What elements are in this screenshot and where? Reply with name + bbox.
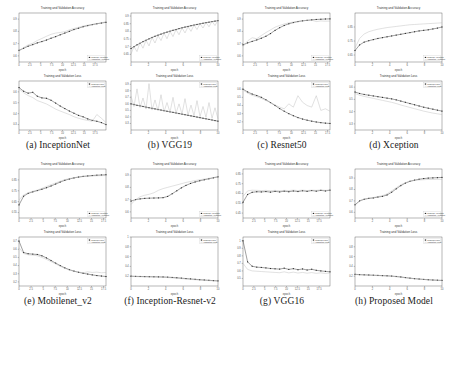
svg-text:0.5: 0.5 — [125, 108, 129, 112]
svg-text:Validation Accuracy: Validation Accuracy — [91, 58, 110, 60]
svg-text:0.6: 0.6 — [349, 255, 353, 259]
svg-text:1: 1 — [127, 235, 129, 239]
svg-text:0.8: 0.8 — [125, 245, 129, 249]
plot-legend: Training AccuracyValidation Accuracy — [200, 212, 222, 217]
series-line — [243, 90, 330, 111]
panel-b: Training and Validation Accuracy02468100… — [114, 4, 226, 140]
series-line — [355, 92, 442, 111]
svg-text:5: 5 — [266, 131, 268, 135]
svg-text:0: 0 — [242, 287, 244, 291]
svg-text:0.5: 0.5 — [237, 276, 241, 280]
svg-text:0.7: 0.7 — [13, 239, 17, 243]
svg-text:0.6: 0.6 — [13, 247, 17, 251]
svg-text:2: 2 — [148, 287, 150, 291]
plot-title: Training and Validation Accuracy — [377, 6, 421, 10]
svg-text:0.85: 0.85 — [124, 22, 130, 26]
svg-text:0.6: 0.6 — [349, 85, 353, 89]
svg-text:17.5: 17.5 — [317, 287, 323, 291]
svg-text:0.3: 0.3 — [349, 122, 353, 126]
svg-text:10: 10 — [61, 131, 64, 135]
svg-text:12.5: 12.5 — [77, 219, 83, 223]
panel-f-plots: Training and Validation Accuracy02468100… — [114, 160, 226, 296]
svg-text:6: 6 — [406, 63, 408, 67]
plot-accuracy: Training and Validation Accuracy02468100… — [118, 160, 222, 228]
svg-text:7.5: 7.5 — [53, 219, 57, 223]
svg-text:15: 15 — [307, 287, 310, 291]
plot-loss: Training and Validation Loss02468100.30.… — [342, 72, 446, 140]
svg-text:0.7: 0.7 — [125, 198, 129, 202]
plot-loss: Training and Validation Loss02468100.30.… — [118, 72, 222, 140]
svg-text:0.5: 0.5 — [237, 95, 241, 99]
svg-text:15: 15 — [90, 219, 93, 223]
plot-legend: Training LossValidation Loss — [424, 238, 441, 243]
svg-text:15: 15 — [314, 131, 317, 135]
svg-text:8: 8 — [424, 219, 426, 223]
caption-d: (d) Xception — [369, 140, 418, 150]
svg-text:17.5: 17.5 — [325, 63, 331, 67]
svg-text:2.5: 2.5 — [253, 63, 257, 67]
svg-text:5: 5 — [264, 287, 266, 291]
svg-text:0: 0 — [18, 287, 20, 291]
caption-cell-d: (d) Xception — [338, 140, 450, 156]
plot-title: Training and Validation Accuracy — [41, 6, 85, 10]
svg-text:0.75: 0.75 — [12, 189, 18, 193]
plot-legend: Training LossValidation Loss — [88, 238, 105, 243]
caption-cell-g: (g) VGG16 — [226, 296, 338, 322]
svg-text:Validation Accuracy: Validation Accuracy — [427, 214, 446, 216]
svg-text:7.5: 7.5 — [50, 131, 54, 135]
svg-text:6: 6 — [406, 131, 408, 135]
svg-text:10: 10 — [217, 287, 220, 291]
svg-text:0.45: 0.45 — [236, 211, 242, 215]
svg-text:7.5: 7.5 — [53, 287, 57, 291]
series-line — [243, 241, 330, 272]
svg-text:2.5: 2.5 — [28, 63, 32, 67]
svg-text:0.4: 0.4 — [349, 110, 353, 114]
svg-text:0.6: 0.6 — [125, 102, 129, 106]
svg-text:0.65: 0.65 — [348, 53, 354, 57]
series-line — [131, 276, 218, 281]
caption-h: (h) Proposed Model — [355, 296, 433, 306]
svg-text:15: 15 — [90, 287, 93, 291]
plot-legend: Training AccuracyValidation Accuracy — [312, 212, 334, 217]
plot-accuracy: Training and Validation Accuracy02.557.5… — [230, 160, 334, 228]
svg-text:0.65: 0.65 — [124, 52, 130, 56]
caption-cell-e: (e) Mobilenet_v2 — [2, 296, 114, 322]
svg-text:Validation Accuracy: Validation Accuracy — [427, 58, 446, 60]
plot-accuracy: Training and Validation Accuracy02.557.5… — [6, 160, 110, 228]
svg-text:0.85: 0.85 — [236, 172, 242, 176]
svg-text:8: 8 — [424, 131, 426, 135]
svg-text:0.8: 0.8 — [349, 187, 353, 191]
series-line — [131, 84, 218, 119]
svg-text:0.4: 0.4 — [125, 264, 129, 268]
svg-text:0.75: 0.75 — [124, 37, 130, 41]
svg-text:5: 5 — [40, 63, 42, 67]
svg-text:5: 5 — [264, 219, 266, 223]
svg-text:10: 10 — [61, 63, 64, 67]
svg-text:0: 0 — [130, 63, 132, 67]
series-line — [19, 176, 106, 200]
series-line — [19, 88, 106, 125]
plot-title: Training and Validation Accuracy — [265, 6, 309, 10]
svg-text:5: 5 — [42, 287, 44, 291]
svg-text:12.5: 12.5 — [295, 287, 301, 291]
series-line — [19, 248, 106, 273]
svg-text:0.4: 0.4 — [125, 115, 129, 119]
plot-title: Training and Validation Accuracy — [377, 162, 421, 166]
svg-text:0: 0 — [354, 131, 356, 135]
svg-text:0: 0 — [130, 287, 132, 291]
svg-text:1: 1 — [239, 239, 241, 243]
svg-text:0.9: 0.9 — [125, 173, 129, 177]
plot-title: Training and Validation Loss — [156, 230, 194, 234]
svg-text:Validation Accuracy: Validation Accuracy — [203, 214, 222, 216]
svg-text:0.6: 0.6 — [237, 54, 241, 58]
svg-text:0: 0 — [130, 131, 132, 135]
svg-text:15: 15 — [83, 63, 86, 67]
svg-text:10: 10 — [441, 219, 444, 223]
svg-text:0: 0 — [242, 63, 244, 67]
panel-h: Training and Validation Accuracy02468100… — [338, 160, 450, 296]
svg-text:2: 2 — [372, 63, 374, 67]
svg-text:0.75: 0.75 — [348, 39, 354, 43]
svg-text:Validation Loss: Validation Loss — [91, 241, 105, 243]
svg-text:0.2: 0.2 — [125, 274, 129, 278]
panel-row-bottom: Training and Validation Accuracy02.557.5… — [2, 160, 450, 296]
